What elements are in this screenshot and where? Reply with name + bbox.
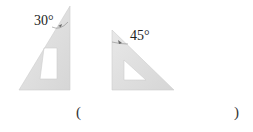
answer-close-paren: ) bbox=[234, 105, 239, 120]
answer-open-paren: ( bbox=[76, 105, 81, 120]
angle-label-30: 30° bbox=[34, 14, 54, 28]
answer-blank[interactable] bbox=[84, 104, 232, 122]
angle-label-45: 45° bbox=[130, 29, 150, 43]
